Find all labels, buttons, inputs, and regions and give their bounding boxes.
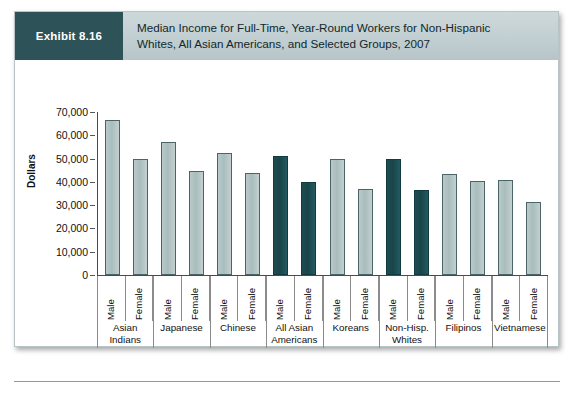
gender-label-row: MaleFemaleMaleFemaleMaleFemaleMaleFemale…: [97, 276, 548, 321]
page-divider-rule: [14, 381, 560, 382]
chart-body: Dollars 70,00060,00050,00040,00030,00020…: [15, 60, 558, 346]
exhibit-number-badge: Exhibit 8.16: [15, 12, 123, 60]
bar-female[interactable]: [470, 181, 485, 275]
gender-label-group: MaleFemale: [266, 276, 322, 321]
bar-group: [436, 112, 492, 275]
gender-label-female: Female: [350, 276, 378, 321]
bar-group: [492, 112, 548, 275]
exhibit-header-band: Exhibit 8.16 Median Income for Full-Time…: [15, 12, 558, 60]
bar-male[interactable]: [386, 159, 401, 275]
gender-label-group: MaleFemale: [153, 276, 209, 321]
gender-label-male: Male: [153, 276, 181, 321]
y-axis-tick: 50,000: [56, 153, 95, 165]
gender-label-group: MaleFemale: [323, 276, 379, 321]
bar-male[interactable]: [105, 120, 120, 275]
category-label: Non-Hisp.Whites: [379, 321, 435, 348]
gender-label-female: Female: [125, 276, 153, 321]
gender-label-female: Female: [519, 276, 547, 321]
bar-male[interactable]: [330, 159, 345, 275]
gender-label-female: Female: [463, 276, 491, 321]
bar-group: [267, 112, 323, 275]
bar-series-container: [98, 112, 548, 275]
exhibit-title: Median Income for Full-Time, Year-Round …: [123, 12, 558, 60]
gender-label-male: Male: [210, 276, 238, 321]
gender-label-group: MaleFemale: [97, 276, 153, 321]
y-axis-tick: 30,000: [56, 199, 95, 211]
bar-group: [323, 112, 379, 275]
bar-female[interactable]: [526, 202, 541, 275]
bar-group: [154, 112, 210, 275]
gender-label-group: MaleFemale: [435, 276, 491, 321]
category-label: AsianIndians: [97, 321, 153, 348]
gender-label-group: MaleFemale: [379, 276, 435, 321]
category-axis: MaleFemaleMaleFemaleMaleFemaleMaleFemale…: [97, 276, 548, 348]
gender-label-female: Female: [237, 276, 265, 321]
gender-label-male: Male: [266, 276, 294, 321]
bar-group: [379, 112, 435, 275]
bar-group: [211, 112, 267, 275]
group-label-row: AsianIndiansJapaneseChineseAll AsianAmer…: [97, 321, 548, 348]
exhibit-title-line-1: Median Income for Full-Time, Year-Round …: [137, 20, 546, 36]
category-label: Koreans: [323, 321, 379, 348]
gender-label-female: Female: [407, 276, 435, 321]
y-axis-tick: 70,000: [56, 106, 95, 118]
gender-label-group: MaleFemale: [492, 276, 548, 321]
bar-female[interactable]: [358, 189, 373, 275]
exhibit-figure: Exhibit 8.16 Median Income for Full-Time…: [14, 11, 559, 347]
exhibit-title-line-2: Whites, All Asian Americans, and Selecte…: [137, 36, 546, 52]
category-label: Vietnamese: [492, 321, 548, 348]
bar-female[interactable]: [133, 159, 148, 275]
bar-male[interactable]: [273, 156, 288, 275]
bar-female[interactable]: [245, 173, 260, 275]
y-axis-title: Dollars: [26, 154, 37, 188]
plot-area: [97, 112, 548, 276]
plot-wrapper: 70,00060,00050,00040,00030,00020,00010,0…: [45, 60, 548, 346]
bar-male[interactable]: [217, 153, 232, 275]
gender-label-male: Male: [97, 276, 125, 321]
y-axis-tick: 60,000: [56, 129, 95, 141]
gender-label-male: Male: [435, 276, 463, 321]
category-label: All AsianAmericans: [266, 321, 322, 348]
category-label: Chinese: [210, 321, 266, 348]
y-axis-tick-labels: 70,00060,00050,00040,00030,00020,00010,0…: [45, 60, 95, 346]
y-axis-tick: 0: [82, 269, 95, 281]
bar-male[interactable]: [498, 180, 513, 275]
bar-female[interactable]: [189, 171, 204, 275]
gender-label-group: MaleFemale: [210, 276, 266, 321]
gender-label-male: Male: [379, 276, 407, 321]
bar-male[interactable]: [161, 142, 176, 275]
bar-female[interactable]: [414, 190, 429, 275]
y-axis-tick: 40,000: [56, 176, 95, 188]
gender-label-male: Male: [492, 276, 520, 321]
category-label: Filipinos: [435, 321, 491, 348]
bar-group: [98, 112, 154, 275]
gender-label-male: Male: [323, 276, 351, 321]
y-axis-tick: 10,000: [56, 246, 95, 258]
category-label: Japanese: [153, 321, 209, 348]
gender-label-female: Female: [181, 276, 209, 321]
y-axis-tick: 20,000: [56, 222, 95, 234]
gender-label-female: Female: [294, 276, 322, 321]
bar-male[interactable]: [442, 174, 457, 275]
bar-female[interactable]: [301, 182, 316, 275]
